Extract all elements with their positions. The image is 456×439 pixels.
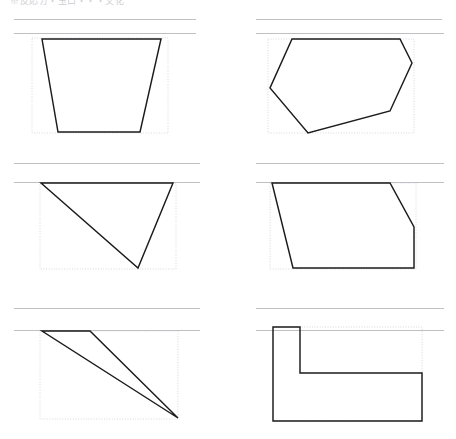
panel-5-narrow-triangle — [42, 331, 178, 418]
panel-1-trapezoid — [42, 39, 161, 132]
panel-5-bounding-box — [40, 331, 178, 419]
ruled-lines-group — [14, 19, 444, 330]
worksheet-page: ※反応ガ・玉口・・・文化 — [0, 0, 456, 439]
panel-2-bounding-box — [268, 39, 414, 133]
panel-3-triangle-down — [41, 183, 173, 268]
panel-1-bounding-box — [32, 38, 168, 133]
panel-4-bounding-box — [270, 183, 416, 269]
panel-6-bounding-box — [273, 327, 422, 421]
figures-canvas — [0, 0, 456, 439]
panel-6-L-shape — [273, 327, 422, 421]
panel-4-clipped-parallelogram — [272, 183, 414, 268]
panel-2-hexagon — [270, 39, 412, 133]
bounding-boxes-group — [32, 38, 422, 421]
polygons-group — [41, 39, 422, 421]
